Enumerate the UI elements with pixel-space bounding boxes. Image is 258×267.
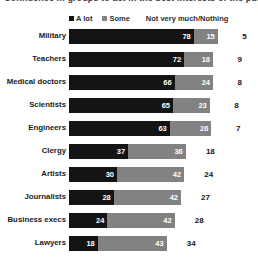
bar-segment-a-lot: 37: [69, 144, 128, 159]
category-label: Business execs: [0, 212, 66, 228]
bar-value-some: 15: [206, 29, 214, 44]
chart-rows: Military78155Teachers72189Medical doctor…: [0, 28, 258, 258]
bar-segment-some: 15: [194, 29, 218, 44]
stacked-bar: 7218: [69, 52, 213, 67]
bar-value-not-very-much: 27: [184, 190, 210, 205]
chart-row: Engineers63267: [0, 120, 258, 143]
bar-value-a-lot: 24: [96, 213, 104, 228]
bar-value-a-lot: 63: [158, 121, 166, 136]
bar-value-not-very-much: 9: [216, 52, 242, 67]
chart-legend: A lotSomeNot very much/Nothing: [69, 12, 258, 25]
stacked-bar: 6624: [69, 75, 213, 90]
category-label: Medical doctors: [0, 74, 66, 90]
stacked-bar: 1843: [69, 236, 167, 251]
stacked-bar: 6523: [69, 98, 210, 113]
bar-value-not-very-much: 7: [214, 121, 240, 136]
stacked-bar: 3736: [69, 144, 186, 159]
bar-value-some: 42: [170, 190, 178, 205]
bar-value-not-very-much: 18: [189, 144, 215, 159]
bar-segment-some: 36: [128, 144, 186, 159]
bar-value-some: 36: [174, 144, 182, 159]
bar-segment-a-lot: 72: [69, 52, 184, 67]
stacked-bar: 2442: [69, 213, 175, 228]
category-label: Journalists: [0, 189, 66, 205]
bar-segment-some: 23: [173, 98, 210, 113]
chart-row: Teachers72189: [0, 51, 258, 74]
bar-segment-some: 26: [170, 121, 212, 136]
bar-value-a-lot: 78: [182, 29, 190, 44]
bar-value-not-very-much: 8: [216, 75, 242, 90]
bar-value-not-very-much: 28: [178, 213, 204, 228]
chart-row: Scientists65238: [0, 97, 258, 120]
bar-segment-some: 43: [98, 236, 167, 251]
category-label: Military: [0, 28, 66, 44]
bar-segment-a-lot: 24: [69, 213, 107, 228]
legend-label: A lot: [76, 15, 92, 23]
bar-value-some: 26: [200, 121, 208, 136]
legend-swatch-icon: [69, 16, 74, 21]
category-label: Clergy: [0, 143, 66, 159]
bar-segment-a-lot: 28: [69, 190, 114, 205]
chart-row: Clergy373618: [0, 143, 258, 166]
category-label: Scientists: [0, 97, 66, 113]
bar-value-not-very-much: 24: [187, 167, 213, 182]
chart-row: Medical doctors66248: [0, 74, 258, 97]
bar-segment-some: 42: [117, 167, 184, 182]
bar-segment-some: 24: [175, 75, 213, 90]
bar-value-a-lot: 66: [163, 75, 171, 90]
bar-value-a-lot: 72: [173, 52, 181, 67]
chart-row: Artists304224: [0, 166, 258, 189]
bar-segment-some: 18: [184, 52, 213, 67]
bar-segment-a-lot: 65: [69, 98, 173, 113]
legend-item[interactable]: A lot: [69, 15, 92, 23]
bar-value-a-lot: 30: [106, 167, 114, 182]
chart-title-cropped: Confidence in groups to act in the best …: [0, 0, 258, 9]
page-title: Confidence in groups to act in the best …: [4, 0, 258, 3]
category-label: Teachers: [0, 51, 66, 67]
bar-segment-a-lot: 63: [69, 121, 170, 136]
bar-value-not-very-much: 8: [213, 98, 239, 113]
bar-value-a-lot: 28: [102, 190, 110, 205]
bar-value-not-very-much: 34: [170, 236, 196, 251]
bar-segment-a-lot: 18: [69, 236, 98, 251]
category-label: Engineers: [0, 120, 66, 136]
bar-value-a-lot: 37: [117, 144, 125, 159]
bar-value-a-lot: 65: [162, 98, 170, 113]
bar-value-some: 24: [202, 75, 210, 90]
bar-value-a-lot: 18: [86, 236, 94, 251]
stacked-bar: 7815: [69, 29, 218, 44]
category-label: Artists: [0, 166, 66, 182]
legend-label: Some: [109, 15, 129, 23]
chart-row: Business execs244228: [0, 212, 258, 235]
bar-value-some: 42: [173, 167, 181, 182]
stacked-bar: 2842: [69, 190, 181, 205]
stacked-bar-chart: Confidence in groups to act in the best …: [0, 0, 258, 267]
legend-label: Not very much/Nothing: [146, 15, 229, 23]
legend-item[interactable]: Some: [102, 15, 129, 23]
category-label: Lawyers: [0, 235, 66, 251]
legend-item[interactable]: Not very much/Nothing: [146, 15, 229, 23]
chart-row: Journalists284227: [0, 189, 258, 212]
bar-value-some: 18: [202, 52, 210, 67]
bar-value-some: 42: [163, 213, 171, 228]
legend-swatch-icon: [102, 16, 107, 21]
bar-segment-a-lot: 78: [69, 29, 194, 44]
bar-value-not-very-much: 5: [221, 29, 247, 44]
chart-row: Lawyers184334: [0, 235, 258, 258]
bar-segment-some: 42: [107, 213, 174, 228]
chart-row: Military78155: [0, 28, 258, 51]
bar-segment-a-lot: 66: [69, 75, 175, 90]
stacked-bar: 3042: [69, 167, 184, 182]
bar-value-some: 23: [198, 98, 206, 113]
bar-value-some: 43: [155, 236, 163, 251]
bar-segment-a-lot: 30: [69, 167, 117, 182]
stacked-bar: 6326: [69, 121, 211, 136]
bar-segment-some: 42: [114, 190, 181, 205]
